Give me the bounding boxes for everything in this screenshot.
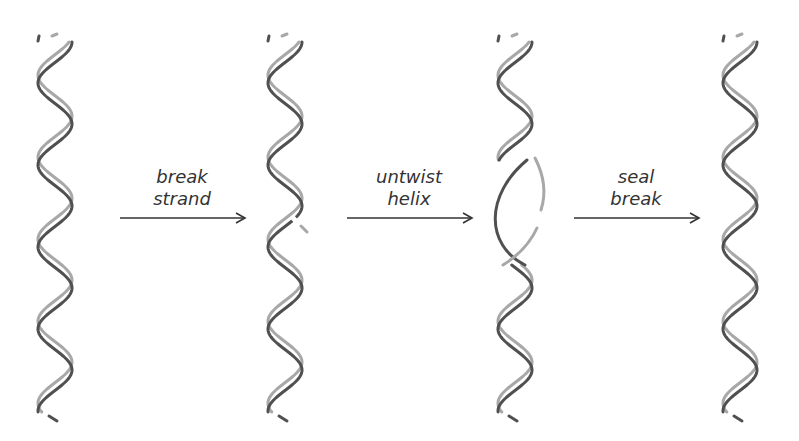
dark-strand: [498, 265, 532, 412]
step-label-untwist-helix: untwist helix: [344, 166, 474, 210]
strand-end-bottom: [509, 416, 517, 421]
step-label-line: seal: [571, 166, 701, 188]
strand-end-top: [38, 36, 39, 41]
step-label-line: untwist: [344, 166, 474, 188]
step-label-seal-break: seal break: [571, 166, 701, 210]
strand-end-top: [737, 34, 742, 36]
strand-end-top: [52, 34, 57, 36]
step-label-break-strand: break strand: [117, 166, 247, 210]
strand-end-top: [512, 34, 517, 36]
step-label-line: strand: [117, 188, 247, 210]
strand-end-top: [268, 36, 269, 41]
light-strand: [498, 42, 532, 160]
topoisomerase-diagram: [0, 0, 799, 441]
strand-end-top: [498, 36, 499, 41]
helix-initial: [38, 34, 72, 421]
strand-end-bottom: [279, 416, 287, 421]
helix-untwisted: [495, 34, 544, 421]
dark-strand: [498, 42, 532, 160]
strand-end-bottom: [49, 416, 57, 421]
strand-end-top: [282, 34, 287, 36]
broken-strand-end: [301, 226, 307, 232]
helix-nicked: [268, 34, 307, 421]
helix-resealed: [723, 34, 757, 421]
strand-end-bottom: [734, 416, 742, 421]
nick-gap: [293, 218, 301, 226]
step-label-line: break: [117, 166, 247, 188]
light-strand-broken-end: [535, 158, 544, 210]
step-label-line: helix: [344, 188, 474, 210]
step-label-line: break: [571, 188, 701, 210]
light-strand-broken-end: [503, 228, 537, 265]
strand-end-top: [723, 36, 724, 41]
